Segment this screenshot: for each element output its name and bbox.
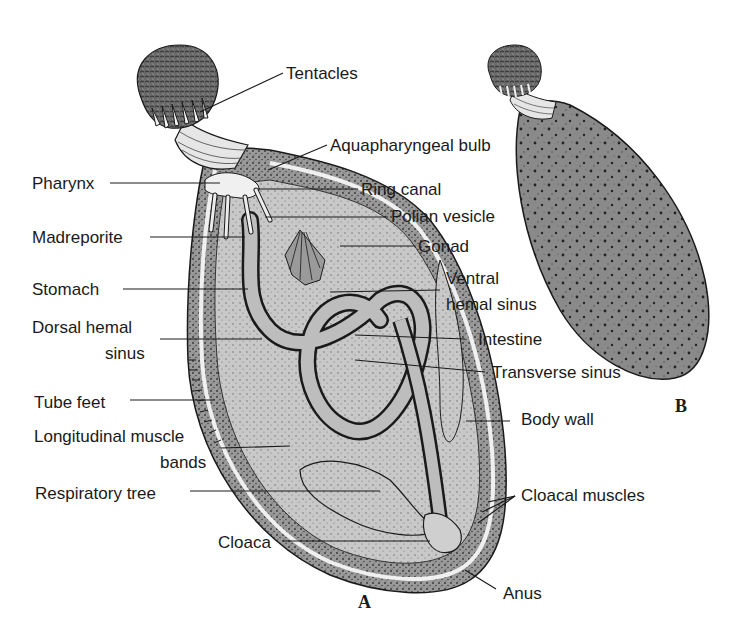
- sea-cucumber-illustration: [0, 0, 738, 631]
- label-longitudinal-muscle-bands-line1: Longitudinal muscle: [34, 427, 184, 446]
- label-transverse-sinus: Transverse sinus: [492, 363, 621, 382]
- label-ventral-hemal-sinus-line2: hemal sinus: [446, 295, 537, 314]
- label-ring-canal: Ring canal: [361, 180, 441, 199]
- label-madreporite: Madreporite: [32, 228, 123, 247]
- panel-label-a: A: [358, 592, 371, 613]
- external-body: [516, 101, 708, 379]
- label-dorsal-hemal-sinus-line1: Dorsal hemal: [32, 318, 132, 337]
- label-anus: Anus: [503, 584, 542, 603]
- label-polian-vesicle: Polian vesicle: [391, 207, 495, 226]
- label-pharynx: Pharynx: [32, 174, 94, 193]
- label-stomach: Stomach: [32, 280, 99, 299]
- label-gonad: Gonad: [418, 237, 469, 256]
- label-body-wall: Body wall: [521, 410, 594, 429]
- panel-label-b: B: [675, 396, 687, 417]
- label-intestine: Intestine: [478, 330, 542, 349]
- label-cloaca: Cloaca: [218, 533, 271, 552]
- label-longitudinal-muscle-bands-line2: bands: [160, 453, 206, 472]
- panel-a-drawing: [137, 45, 506, 593]
- label-ventral-hemal-sinus-line1: Ventral: [446, 269, 499, 288]
- label-cloacal-muscles: Cloacal muscles: [521, 486, 645, 505]
- label-aquapharyngeal-bulb: Aquapharyngeal bulb: [330, 136, 491, 155]
- label-dorsal-hemal-sinus-line2: sinus: [105, 344, 145, 363]
- label-respiratory-tree: Respiratory tree: [35, 484, 156, 503]
- label-tube-feet: Tube feet: [34, 393, 105, 412]
- label-tentacles: Tentacles: [286, 64, 358, 83]
